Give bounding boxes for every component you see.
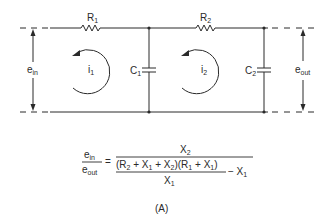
resistor-r2-icon [196, 25, 215, 31]
label-c2: C2 [245, 66, 256, 77]
eq-minus-term: − X1 [228, 167, 247, 178]
eq-lhs-numerator: ein [84, 150, 95, 161]
capacitor-c1-icon [142, 28, 156, 112]
resistor-r1-icon [81, 25, 100, 31]
capacitor-c2-icon [257, 28, 271, 112]
eq-equals-sign: = [105, 157, 111, 167]
loop-arrowhead-i1-icon [72, 50, 80, 56]
loop-arrowhead-i2-icon [181, 50, 189, 56]
arrowhead-up-icon [301, 29, 306, 36]
label-i2: i2 [201, 65, 207, 76]
label-eout: eout [295, 65, 310, 76]
arrowhead-up-icon [31, 29, 36, 36]
label-i1: i1 [88, 65, 94, 76]
arrowhead-down-icon [31, 104, 36, 111]
eq-inner-numerator: (R2 + X1 + X2)(R1 + X1) [116, 160, 218, 171]
label-r1: R1 [87, 13, 98, 24]
eq-inner-denominator: X1 [164, 176, 175, 187]
label-r2: R2 [200, 13, 211, 24]
eq-rhs-numerator: X2 [180, 145, 191, 156]
label-ein: ein [27, 65, 38, 76]
eq-lhs-denominator: eout [82, 165, 97, 176]
top-rail [50, 25, 268, 31]
figure-caption: (A) [155, 203, 168, 214]
label-c1: C1 [130, 66, 141, 77]
arrowhead-down-icon [301, 104, 306, 111]
